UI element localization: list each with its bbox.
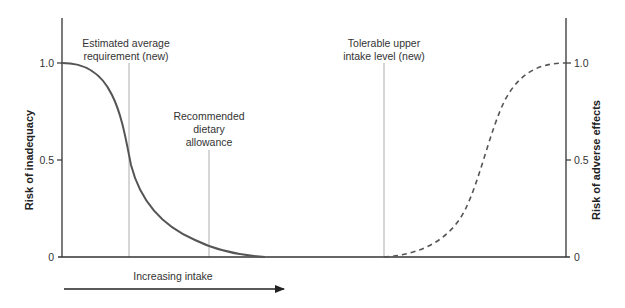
ul-label-line1: Tolerable upper — [348, 37, 421, 49]
right-y-axis-title: Risk of adverse effects — [590, 100, 602, 220]
ear-label-line1: Estimated average — [82, 37, 170, 49]
rda-label-line1: Recommended — [173, 110, 244, 122]
rda-label-line3: allowance — [186, 136, 233, 148]
left-y-axis-title: Risk of inadequacy — [23, 109, 35, 210]
right-tick-label-1: 1.0 — [574, 57, 589, 69]
left-tick-label-0: 0 — [48, 251, 54, 263]
x-axis-title: Increasing intake — [133, 270, 213, 282]
risk-of-adverse-effects-curve — [384, 63, 566, 257]
dri-risk-chart: 1.0 0.5 0 1.0 0.5 0 Risk of inadequacy R… — [0, 0, 625, 308]
left-tick-label-05: 0.5 — [39, 154, 54, 166]
ul-label-line2: intake level (new) — [343, 50, 425, 62]
right-tick-label-05: 0.5 — [574, 154, 589, 166]
ear-label-line2: requirement (new) — [83, 50, 168, 62]
right-tick-label-0: 0 — [574, 251, 580, 263]
rda-label-line2: dietary — [193, 123, 225, 135]
chart-canvas: 1.0 0.5 0 1.0 0.5 0 Risk of inadequacy R… — [0, 0, 625, 308]
risk-of-inadequacy-curve — [62, 63, 265, 257]
left-tick-label-1: 1.0 — [39, 57, 54, 69]
